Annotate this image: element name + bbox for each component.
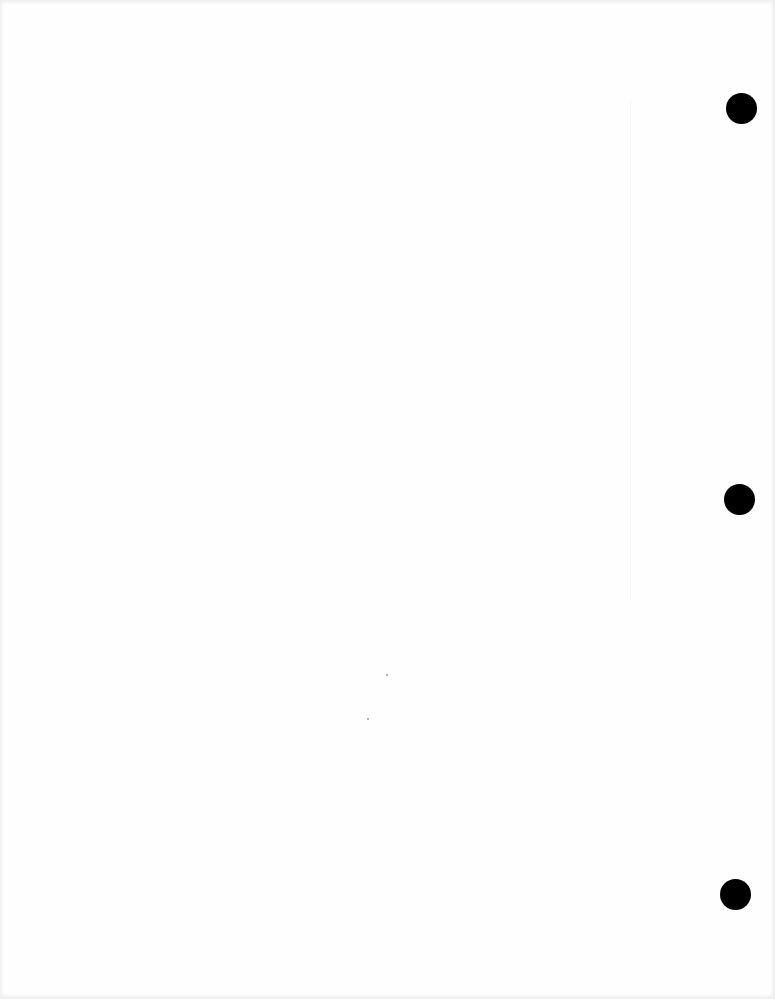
page-edge-left — [0, 0, 3, 999]
faint-crease-line — [630, 100, 631, 600]
scan-speck — [386, 674, 388, 676]
page-edge-right — [771, 0, 775, 999]
binder-hole-top — [726, 93, 757, 124]
blank-page — [0, 0, 775, 999]
page-edge-bottom — [0, 994, 775, 999]
scan-speck — [367, 718, 369, 720]
page-edge-top — [0, 0, 775, 4]
binder-hole-bottom — [720, 879, 751, 910]
binder-hole-middle — [724, 484, 755, 515]
